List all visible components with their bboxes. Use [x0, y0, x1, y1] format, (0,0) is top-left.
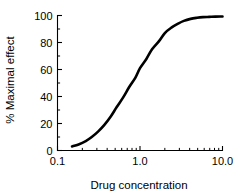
y-tick-label: 20 [40, 118, 52, 130]
x-tick-label: 10.0 [212, 155, 233, 167]
y-axis-tick-labels: 020406080100 [34, 10, 52, 157]
y-axis-title: % Maximal effect [4, 36, 16, 124]
y-tick-label: 60 [40, 64, 52, 76]
y-tick-label: 40 [40, 91, 52, 103]
x-axis-ticks [58, 146, 223, 151]
chart-canvas: 020406080100 0.11.010.0 Drug concentrati… [0, 0, 248, 196]
y-axis-ticks [58, 16, 63, 151]
y-tick-label: 100 [34, 10, 52, 22]
x-axis-tick-labels: 0.11.010.0 [50, 155, 233, 167]
x-axis-title: Drug concentration [90, 179, 187, 191]
dose-response-curve [72, 16, 222, 146]
dose-response-chart: 020406080100 0.11.010.0 Drug concentrati… [0, 0, 248, 196]
x-tick-label: 1.0 [132, 155, 147, 167]
x-tick-label: 0.1 [50, 155, 65, 167]
y-tick-label: 80 [40, 37, 52, 49]
